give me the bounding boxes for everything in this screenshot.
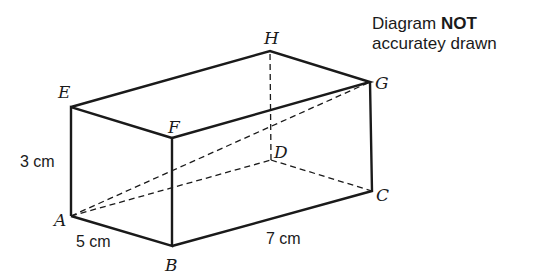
note-line-1: Diagram NOT — [372, 14, 497, 34]
diagonal-AG — [71, 82, 370, 216]
vertex-label-H: H — [263, 28, 280, 48]
not-accurately-drawn-note: Diagram NOT accuratey drawn — [372, 14, 497, 54]
dimension-length-label: 7 cm — [266, 230, 301, 247]
vertex-label-G: G — [375, 73, 389, 93]
vertex-label-C: C — [376, 185, 389, 205]
dimension-width-label: 5 cm — [76, 233, 111, 250]
hidden-edges — [71, 51, 372, 216]
edge-DC — [271, 160, 372, 191]
edge-DH — [270, 51, 271, 160]
front-face — [71, 107, 172, 246]
note-bold-not: NOT — [441, 14, 477, 33]
note-prefix: Diagram — [372, 14, 441, 33]
vertex-label-A: A — [52, 210, 66, 230]
vertex-label-B: B — [164, 255, 178, 275]
dimension-height-label: 3 cm — [20, 153, 55, 170]
vertex-label-E: E — [57, 82, 71, 102]
vertex-label-D: D — [273, 142, 288, 162]
vertex-label-F: F — [167, 117, 181, 137]
top-face — [71, 51, 370, 138]
right-face — [172, 82, 372, 246]
cuboid-diagram: A B C D E F G H 3 cm 5 cm 7 cm Diagram N… — [0, 0, 537, 278]
note-line-2: accuratey drawn — [372, 34, 497, 54]
